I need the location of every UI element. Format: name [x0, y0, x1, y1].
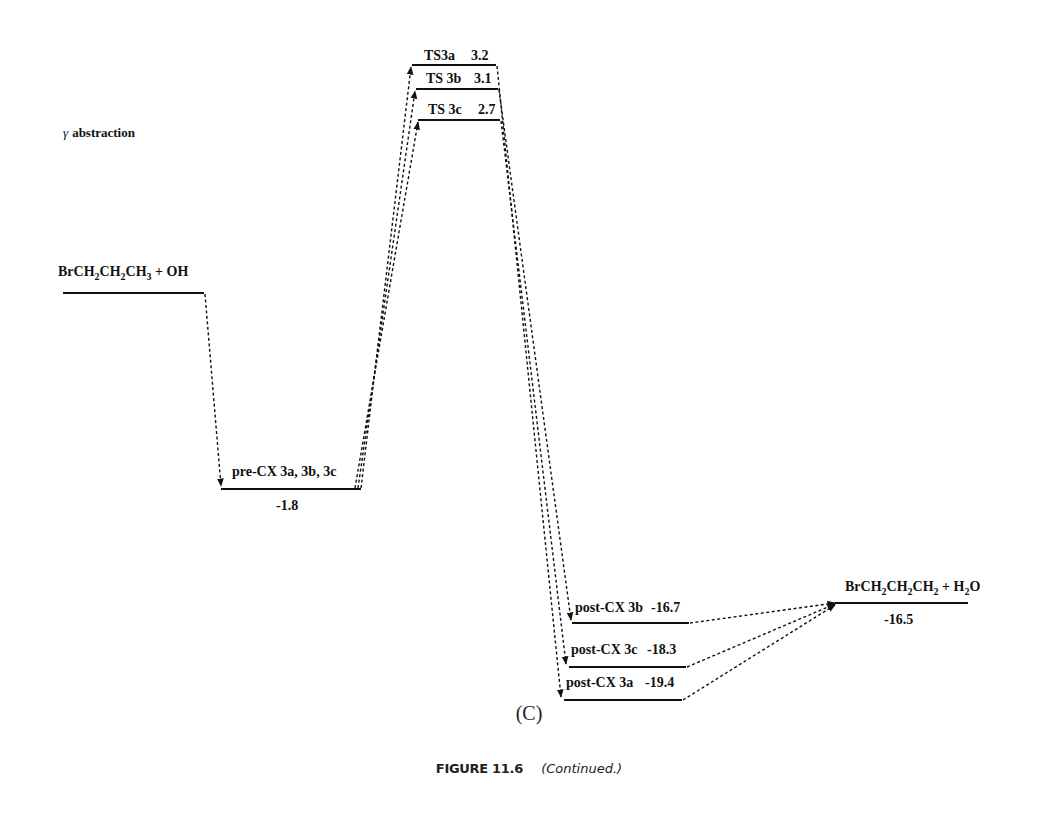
ts3b-energy: 3.1	[474, 71, 492, 86]
level-ts3c: TS 3c 2.7	[418, 102, 500, 120]
figure-note: (Continued.)	[541, 761, 622, 776]
ts3c-label: TS 3c	[428, 102, 462, 117]
ts3c-energy: 2.7	[478, 102, 496, 117]
post-cx3c-energy: -18.3	[647, 642, 676, 657]
panel-label: (C)	[0, 702, 1058, 725]
level-reactants: BrCH2CH2CH3 + OH	[58, 264, 204, 293]
energy-diagram: γabstraction BrCH2CH2CH3 + OH pre-CX 3a,…	[0, 0, 1058, 815]
post-cx3c-label: post-CX 3c	[571, 642, 638, 657]
ts3a-label: TS3a	[424, 48, 455, 63]
diagram-title: γabstraction	[63, 125, 136, 140]
level-post-cx3a: post-CX 3a -19.4	[564, 675, 682, 700]
pre-cx-energy: -1.8	[276, 498, 298, 513]
level-ts3b: TS 3b 3.1	[416, 71, 498, 89]
products-energy: -16.5	[884, 612, 913, 627]
level-post-cx3c: post-CX 3c -18.3	[569, 642, 686, 667]
post-cx3a-energy: -19.4	[645, 675, 674, 690]
products-label: BrCH2CH2CH2 + H2O	[845, 579, 980, 597]
ts3b-label: TS 3b	[426, 71, 462, 86]
pre-cx-label: pre-CX 3a, 3b, 3c	[232, 464, 336, 479]
level-products: BrCH2CH2CH2 + H2O -16.5	[835, 579, 980, 627]
figure-number: FIGURE 11.6	[436, 761, 523, 776]
figure-caption: FIGURE 11.6 (Continued.)	[0, 761, 1058, 776]
connectors	[205, 66, 835, 700]
reactants-label: BrCH2CH2CH3 + OH	[58, 264, 188, 282]
level-pre-cx: pre-CX 3a, 3b, 3c -1.8	[221, 464, 361, 513]
level-post-cx3b: post-CX 3b -16.7	[572, 600, 689, 623]
ts3a-energy: 3.2	[471, 48, 489, 63]
post-cx3a-label: post-CX 3a	[566, 675, 633, 690]
post-cx3b-label: post-CX 3b	[575, 600, 643, 615]
level-ts3a: TS3a 3.2	[412, 48, 496, 65]
post-cx3b-energy: -16.7	[651, 600, 680, 615]
